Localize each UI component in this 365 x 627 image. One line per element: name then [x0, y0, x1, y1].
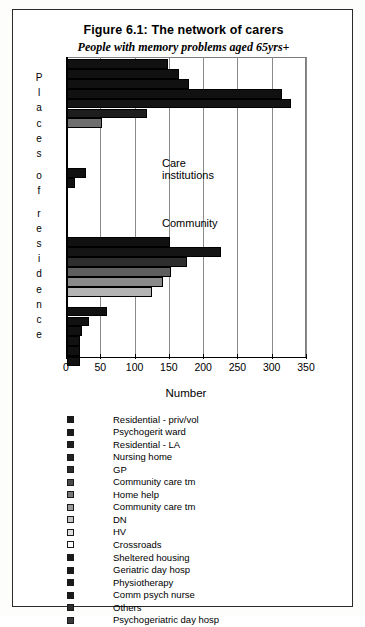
y-axis-title-letter: c	[31, 312, 47, 327]
gridline	[306, 57, 307, 358]
legend-item: Others	[13, 602, 354, 615]
bar	[67, 307, 107, 317]
legend-swatch	[67, 529, 74, 536]
x-tick	[306, 354, 307, 359]
y-axis-title-letter: i	[31, 251, 47, 266]
legend-item: Psychogerit ward	[13, 427, 354, 440]
legend-label: Community care tm	[113, 501, 195, 512]
y-axis-title-letter: e	[31, 327, 47, 342]
legend-item: Residential - LA	[13, 439, 354, 452]
legend-swatch	[67, 516, 74, 523]
y-axis-title-letter: f	[31, 183, 47, 198]
bar	[67, 317, 89, 327]
legend-label: Comm psych nurse	[113, 589, 195, 600]
y-axis-title-letter: n	[31, 297, 47, 312]
x-tick	[169, 354, 170, 359]
legend-item: GP	[13, 464, 354, 477]
legend-label: Home help	[113, 489, 159, 500]
y-axis-title-letter: d	[31, 266, 47, 281]
legend-swatch	[67, 579, 74, 586]
legend-swatch	[67, 454, 74, 461]
legend-label: Psychogerit ward	[113, 426, 186, 437]
figure-frame: Figure 6.1: The network of carers People…	[12, 9, 353, 607]
y-axis-title-letter: e	[31, 282, 47, 297]
legend-item: Geriatric day hosp	[13, 565, 354, 578]
legend-label: Nursing home	[113, 451, 172, 462]
legend-item: DN	[13, 514, 354, 527]
bar	[67, 109, 147, 119]
legend-label: Residential - LA	[113, 439, 180, 450]
legend-swatch	[67, 554, 74, 561]
y-axis-title-letter: s	[31, 236, 47, 251]
x-tick	[66, 354, 67, 359]
legend-swatch	[67, 592, 74, 599]
legend-label: Physiotherapy	[113, 577, 173, 588]
bar	[67, 287, 152, 297]
y-axis-title-letter: a	[31, 100, 47, 115]
legend-item: Home help	[13, 489, 354, 502]
y-axis-title-letter: o	[31, 168, 47, 183]
bar	[67, 346, 80, 356]
legend-label: Residential - priv/vol	[113, 414, 199, 425]
legend-swatch	[67, 617, 74, 624]
y-axis-title-letter: s	[31, 146, 47, 161]
y-axis-title-letter: l	[31, 85, 47, 100]
x-tick	[272, 354, 273, 359]
bar	[67, 247, 221, 257]
legend-swatch	[67, 429, 74, 436]
legend-label: HV	[113, 526, 126, 537]
bar	[67, 118, 102, 128]
legend-label: Crossroads	[113, 539, 162, 550]
x-tick-label: 350	[286, 361, 326, 373]
bar	[67, 257, 187, 267]
bar	[67, 326, 82, 336]
legend-swatch	[67, 479, 74, 486]
bar	[67, 178, 75, 188]
legend-item: Psychogeriatric day hosp	[13, 615, 354, 627]
bar	[67, 277, 163, 287]
bar	[67, 59, 168, 69]
x-tick	[237, 354, 238, 359]
legend-swatch	[67, 567, 74, 574]
y-axis-title: Placesofresidence	[31, 70, 47, 342]
y-axis-title-letter: r	[31, 206, 47, 221]
legend-label: Geriatric day hosp	[113, 564, 190, 575]
legend-swatch	[67, 504, 74, 511]
legend-swatch	[67, 441, 74, 448]
cluster-annotation-line: Community	[162, 217, 218, 229]
cluster-annotation-line: institutions	[162, 169, 214, 181]
figure-title: Figure 6.1: The network of carers	[13, 23, 354, 37]
bar	[67, 99, 291, 109]
cluster-annotation-line: Care	[162, 157, 214, 169]
bar	[67, 168, 86, 178]
legend-label: DN	[113, 514, 127, 525]
x-axis-line	[66, 357, 306, 359]
bar	[67, 89, 282, 99]
legend-swatch	[67, 541, 74, 548]
legend-swatch	[67, 416, 74, 423]
y-axis-title-letter: c	[31, 116, 47, 131]
y-axis-title-letter: e	[31, 221, 47, 236]
bar	[67, 237, 170, 247]
bar	[67, 69, 179, 79]
legend-item: Sheltered housing	[13, 552, 354, 565]
cluster-annotation: Community	[162, 217, 218, 229]
legend-label: Others	[113, 602, 142, 613]
x-tick	[135, 354, 136, 359]
chart-plot-area: 050100150200250300350 CareinstitutionsCo…	[66, 57, 306, 358]
bar	[67, 336, 80, 346]
legend-item: Residential - priv/vol	[13, 414, 354, 427]
y-axis-title-letter: P	[31, 70, 47, 85]
x-tick	[203, 354, 204, 359]
bar	[67, 267, 171, 277]
legend-item: HV	[13, 527, 354, 540]
legend-item: Community care tm	[13, 502, 354, 515]
bar	[67, 79, 189, 89]
legend-label: Community care tm	[113, 476, 195, 487]
legend-swatch	[67, 604, 74, 611]
y-axis-line	[66, 57, 68, 358]
legend-label: Psychogeriatric day hosp	[113, 614, 219, 625]
legend-swatch	[67, 466, 74, 473]
legend-item: Comm psych nurse	[13, 590, 354, 603]
legend-item: Physiotherapy	[13, 577, 354, 590]
